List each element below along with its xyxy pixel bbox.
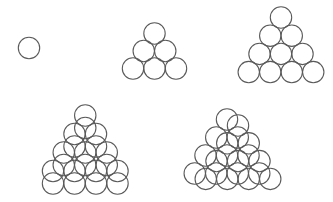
circle-icon bbox=[75, 105, 96, 126]
figure-two-layers-diagonal-offset bbox=[184, 109, 281, 190]
circle-packing-diagram bbox=[0, 0, 333, 202]
circle-icon bbox=[42, 173, 63, 194]
circle-icon bbox=[238, 61, 259, 82]
figure-two-layers-vertical-offset bbox=[42, 105, 128, 194]
circle-icon bbox=[303, 61, 324, 82]
circle-icon bbox=[260, 61, 281, 82]
circle-icon bbox=[85, 173, 106, 194]
circle-icon bbox=[165, 58, 186, 79]
circle-icon bbox=[64, 173, 85, 194]
circle-icon bbox=[144, 58, 165, 79]
circle-icon bbox=[107, 173, 128, 194]
circle-icon bbox=[122, 58, 143, 79]
circle-icon bbox=[18, 37, 39, 58]
figure-triangle-4-rows bbox=[238, 7, 324, 83]
circle-icon bbox=[281, 61, 302, 82]
figure-single-circle bbox=[18, 37, 39, 58]
figure-triangle-3-rows bbox=[122, 23, 186, 79]
